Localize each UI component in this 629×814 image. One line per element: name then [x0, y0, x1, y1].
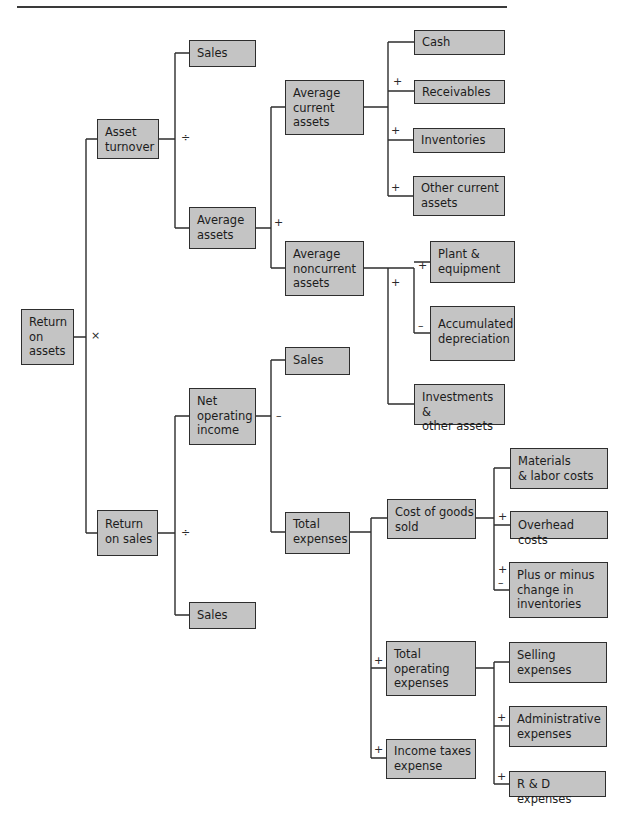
- node-income-taxes-expense: Income taxes expense: [386, 739, 476, 779]
- operator-plus-receivables: +: [393, 76, 402, 87]
- node-net-operating-income: Net operating income: [189, 388, 256, 445]
- node-asset-turnover: Asset turnover: [97, 119, 159, 159]
- operator-plus-other-current: +: [391, 182, 400, 193]
- node-receivables: Receivables: [414, 80, 505, 104]
- node-return-on-assets: Return on assets: [21, 309, 74, 365]
- node-change-in-inventories: Plus or minus change in inventories: [509, 562, 608, 618]
- operator-plus-admin: +: [497, 712, 506, 723]
- node-average-current-assets: Average current assets: [285, 80, 364, 135]
- node-average-assets: Average assets: [189, 207, 256, 249]
- operator-plus-noncurrent: +: [391, 277, 400, 288]
- operator-divide-asset-turnover: ÷: [181, 132, 190, 143]
- node-total-operating-expenses: Total operating expenses: [386, 641, 476, 696]
- node-sales-mid: Sales: [285, 347, 350, 375]
- operator-plus-average-assets: +: [274, 217, 283, 228]
- operator-plus-overhead: +: [498, 511, 507, 522]
- node-investments-other-assets: Investments & other assets: [414, 384, 505, 425]
- operator-divide-return-on-sales: ÷: [181, 527, 190, 538]
- node-sales-bottom: Sales: [189, 602, 256, 629]
- node-average-noncurrent-assets: Average noncurrent assets: [285, 241, 364, 296]
- operator-plus-inventories: +: [391, 125, 400, 136]
- node-selling-expenses: Selling expenses: [509, 642, 607, 683]
- node-rd-expenses: R & D expenses: [509, 771, 606, 797]
- operator-plus-toe: +: [374, 655, 383, 666]
- operator-plus-plant: +: [418, 260, 427, 271]
- operator-minus-accumulated: –: [418, 320, 424, 331]
- operator-multiply: ×: [91, 330, 100, 341]
- node-cash: Cash: [414, 30, 505, 55]
- node-administrative-expenses: Administrative expenses: [509, 706, 607, 747]
- operator-minus-noi: –: [276, 410, 282, 421]
- node-total-expenses: Total expenses: [285, 512, 350, 554]
- node-accumulated-depreciation: Accumulated depreciation: [430, 306, 515, 361]
- node-plant-equipment: Plant & equipment: [430, 241, 515, 283]
- operator-minus-change: –: [498, 577, 504, 588]
- operator-plus-change: +: [498, 564, 507, 575]
- operator-plus-taxes: +: [374, 744, 383, 755]
- node-inventories: Inventories: [413, 128, 505, 153]
- node-other-current-assets: Other current assets: [413, 176, 505, 216]
- node-return-on-sales: Return on sales: [97, 510, 158, 556]
- operator-plus-rd: +: [497, 771, 506, 782]
- node-materials-labor-costs: Materials & labor costs: [510, 448, 608, 489]
- node-overhead-costs: Overhead costs: [510, 511, 608, 539]
- node-cost-of-goods-sold: Cost of goods sold: [387, 499, 476, 539]
- node-sales-top: Sales: [189, 40, 256, 67]
